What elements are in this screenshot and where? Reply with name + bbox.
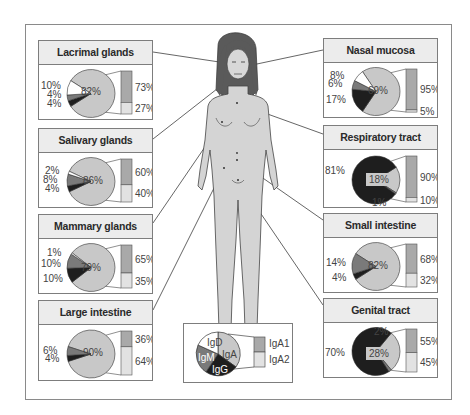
igg-value: 70%: [325, 347, 345, 358]
panel-chart: 73%27%82%10%4%4%: [39, 65, 152, 120]
iga-value: 28%: [369, 348, 389, 359]
panel-genital: Genital tract55%45%28%70%2%: [323, 298, 438, 378]
iga-value: 82%: [81, 86, 101, 97]
panel-chart: 36%64%90%6%4%: [39, 325, 152, 381]
igm-value: 6%: [328, 78, 343, 89]
iga2-value: 27%: [135, 103, 152, 114]
iga1-value: 60%: [135, 167, 152, 178]
panel-chart: 55%45%28%70%2%: [324, 323, 437, 378]
panel-chart: 90%10%18%81%1%: [324, 150, 437, 208]
panel-title: Lacrimal glands: [39, 41, 152, 65]
bar-iga2: [406, 110, 417, 112]
iga1-value: 55%: [420, 336, 437, 347]
legend-igd: IgD: [207, 337, 223, 348]
panel-title: Salivary glands: [39, 129, 152, 153]
bar-iga2: [121, 185, 132, 202]
iga-value: 69%: [368, 85, 388, 96]
igm-value: 10%: [41, 258, 61, 269]
legend-iga2: IgA2: [269, 354, 290, 365]
bar-iga1: [121, 71, 132, 102]
igg-value: 17%: [326, 94, 346, 105]
panel-lacrimal: Lacrimal glands73%27%82%10%4%4%: [38, 40, 153, 120]
legend-igm: IgM: [198, 352, 215, 363]
iga2-value: 10%: [420, 195, 437, 206]
bar-iga1: [121, 159, 132, 185]
bar-iga1: [121, 331, 132, 347]
iga-value: 18%: [369, 174, 389, 185]
iga1-value: 68%: [420, 254, 437, 265]
igm-value: 1%: [372, 197, 387, 208]
iga2-value: 45%: [420, 357, 437, 368]
iga2-value: 64%: [135, 356, 152, 367]
igm-value: 2%: [374, 326, 389, 337]
panel-title: Respiratory tract: [324, 126, 437, 150]
bar-iga1: [406, 156, 417, 197]
legend-pie: IgD IgA IgM IgG: [196, 332, 240, 376]
bar-iga2: [406, 197, 417, 202]
iga2-value: 40%: [135, 188, 152, 199]
igg-value: 4%: [45, 183, 60, 194]
legend-iga: IgA: [222, 349, 237, 360]
panel-title: Small intestine: [324, 214, 437, 238]
panel-title: Genital tract: [324, 299, 437, 323]
igg-value: 4%: [332, 272, 347, 283]
bar-iga1: [121, 245, 132, 273]
panel-mammary: Mammary glands65%35%79%1%10%10%: [38, 214, 153, 294]
bar-iga2: [406, 353, 417, 372]
igg-value: 10%: [43, 273, 63, 284]
panel-chart: 95%5%69%8%6%17%: [324, 63, 437, 118]
igg-value: 81%: [325, 165, 345, 176]
iga1-value: 73%: [135, 82, 152, 93]
iga-value: 79%: [81, 262, 101, 273]
panel-title: Mammary glands: [39, 215, 152, 239]
panel-chart: 68%32%82%14%4%: [324, 238, 437, 293]
bar-iga1: [406, 244, 417, 273]
panel-chart: 65%35%79%1%10%10%: [39, 239, 152, 294]
iga2-value: 35%: [135, 276, 152, 287]
igm-value: 14%: [326, 257, 346, 268]
bar-iga1: [406, 69, 417, 110]
iga-value: 90%: [83, 347, 103, 358]
iga1-value: 95%: [420, 84, 437, 95]
igg-value: 4%: [45, 353, 60, 364]
iga-value: 82%: [368, 260, 388, 271]
iga1-value: 65%: [135, 254, 152, 265]
iga-value: 86%: [83, 175, 103, 186]
igg-value: 4%: [47, 98, 62, 109]
legend-box: IgD IgA IgM IgG IgA1 IgA2: [183, 323, 293, 383]
bar-iga2: [406, 273, 417, 287]
legend-igg: IgG: [212, 364, 228, 375]
panel-large-intestine: Large intestine36%64%90%6%4%: [38, 300, 153, 381]
bar-iga2: [121, 347, 132, 375]
panel-small-intestine: Small intestine68%32%82%14%4%: [323, 213, 438, 293]
iga2-value: 5%: [420, 106, 435, 117]
bar-iga1: [406, 329, 417, 353]
panel-respiratory: Respiratory tract90%10%18%81%1%: [323, 125, 438, 208]
igd-value: 1%: [47, 247, 62, 258]
legend-iga1: IgA1: [269, 338, 290, 349]
panel-chart: 60%40%86%2%8%4%: [39, 153, 152, 208]
panel-title: Nasal mucosa: [324, 39, 437, 63]
iga2-value: 32%: [420, 275, 437, 286]
bar-iga2: [121, 273, 132, 288]
bar-iga2: [121, 102, 132, 114]
iga1-value: 90%: [420, 172, 437, 183]
panel-title: Large intestine: [39, 301, 152, 325]
panel-nasal: Nasal mucosa95%5%69%8%6%17%: [323, 38, 438, 118]
panel-salivary: Salivary glands60%40%86%2%8%4%: [38, 128, 153, 208]
iga1-value: 36%: [135, 334, 152, 345]
